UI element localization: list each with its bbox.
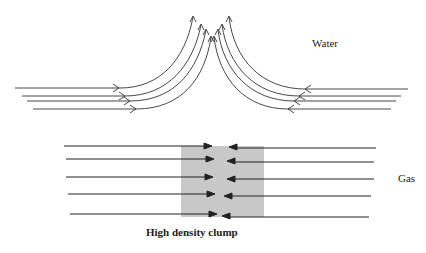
high-density-clump-region	[181, 146, 264, 217]
water-arrowheads	[113, 16, 311, 113]
water-label: Water	[312, 37, 338, 49]
water-flow-lines	[15, 17, 408, 109]
gas-label: Gas	[398, 172, 415, 184]
flow-diagram	[0, 0, 426, 253]
clump-caption: High density clump	[146, 226, 238, 238]
